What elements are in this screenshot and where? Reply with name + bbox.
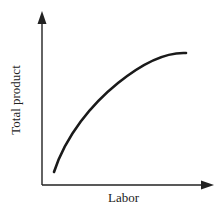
x-axis-label: Labor <box>108 190 139 206</box>
chart-canvas <box>0 0 220 214</box>
total-product-curve <box>54 53 186 172</box>
x-axis-arrow-icon <box>201 181 214 190</box>
y-axis-arrow-icon <box>38 11 47 24</box>
y-axis-label: Total product <box>8 60 24 140</box>
